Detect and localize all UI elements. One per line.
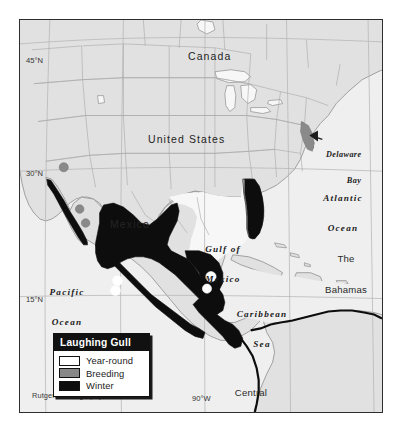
legend-label-winter: Winter bbox=[86, 380, 114, 391]
map-legend: Laughing Gull Year-round Breeding Winter bbox=[53, 333, 150, 397]
legend-swatch-breeding bbox=[59, 368, 80, 378]
legend-item-year-round: Year-round bbox=[59, 355, 149, 366]
legend-swatch-winter bbox=[59, 381, 80, 391]
year-round-dot-gulf-upper bbox=[206, 272, 216, 282]
legend-label-year-round: Year-round bbox=[86, 355, 133, 366]
breeding-dot-sonora-south bbox=[81, 219, 90, 228]
breeding-dot-sonora-north bbox=[75, 205, 84, 214]
legend-title: Laughing Gull bbox=[54, 334, 149, 351]
breeding-dot-california bbox=[59, 163, 68, 172]
year-round-dot-pacific-upper bbox=[113, 276, 123, 286]
laughing-gull-range-map-figure: 45°N 30°N 15°N 90°W Canada United States… bbox=[0, 0, 399, 443]
legend-label-breeding: Breeding bbox=[86, 368, 124, 379]
year-round-dot-gulf-lower bbox=[202, 284, 211, 293]
year-round-dot-pacific-lower bbox=[111, 286, 121, 296]
south-america-land bbox=[255, 311, 382, 412]
legend-item-breeding: Breeding bbox=[59, 368, 149, 379]
map-frame: 45°N 30°N 15°N 90°W Canada United States… bbox=[19, 19, 383, 413]
great-salt-lake bbox=[98, 96, 105, 104]
legend-items: Year-round Breeding Winter bbox=[54, 351, 149, 396]
legend-item-winter: Winter bbox=[59, 380, 149, 391]
legend-swatch-year-round bbox=[59, 356, 80, 366]
